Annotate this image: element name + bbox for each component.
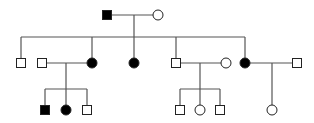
connecting-lines [21,15,293,106]
unaffected-male-ii-2 [38,59,47,68]
unaffected-male-iii-3 [83,106,92,115]
unaffected-female-i-2 [153,10,163,20]
unaffected-male-ii-5 [172,59,181,68]
unaffected-female-ii-6 [221,58,231,68]
affected-female-ii-7 [240,58,250,68]
unaffected-male-ii-1 [17,59,26,68]
affected-female-iii-2 [61,105,71,115]
unaffected-female-iii-7 [267,105,277,115]
affected-female-ii-4 [129,58,139,68]
unaffected-male-iii-6 [216,106,225,115]
unaffected-female-iii-5 [195,105,205,115]
unaffected-male-iii-4 [176,106,185,115]
unaffected-male-ii-8 [293,59,302,68]
affected-female-ii-3 [87,58,97,68]
pedigree-chart [0,0,314,123]
affected-male-iii-1 [41,106,50,115]
affected-male-i-1 [103,11,112,20]
